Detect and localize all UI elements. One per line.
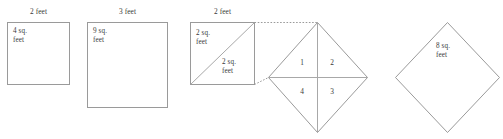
square-2ft-dimension-label: 2 feet [7,8,70,17]
diamond-8sqft-area-label: 8 sq. feet [436,42,450,59]
square-split-upper-triangle-label: 2 sq. feet [196,29,210,46]
diamond-quadrant-2-label: 2 [327,58,337,67]
square-3ft-area-label: 9 sq. feet [93,27,107,44]
diamond-8sqft-outline [396,23,500,133]
square-split-lower-triangle-label: 2 sq. feet [222,58,236,75]
square-3ft-dimension-label: 3 feet [87,8,168,17]
square-2ft-split-dimension-label: 2 feet [190,8,255,17]
connector-bottom-dotted-line [255,78,269,85]
square-2ft-area-label: 4 sq. feet [13,27,27,44]
diamond-quadrant-1-label: 1 [297,58,307,67]
diamond-quadrant-4-label: 4 [297,87,307,96]
diamond-quadrant-3-label: 3 [327,87,337,96]
geometry-figure: 2 feet 4 sq. feet 3 feet 9 sq. feet 2 fe… [0,0,503,139]
figure-canvas [0,0,503,139]
